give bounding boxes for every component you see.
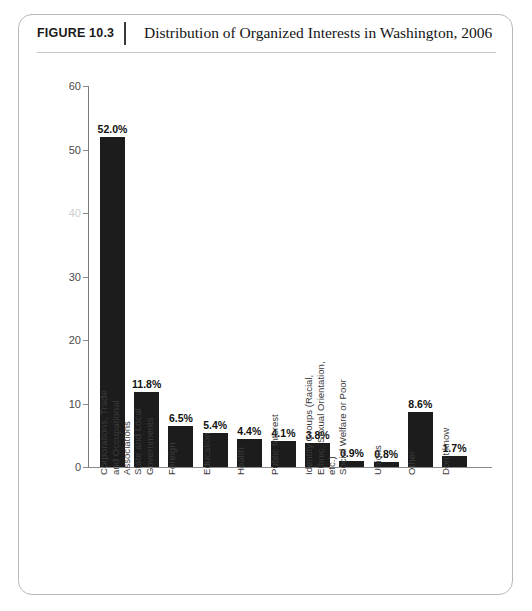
x-axis-category-label: Education xyxy=(201,350,213,475)
x-axis-category-label: Public Interest xyxy=(269,350,281,475)
y-axis-tick-label: 30 xyxy=(37,272,81,283)
y-axis-tick xyxy=(83,86,88,87)
y-axis-tick-label-wrap: 40 xyxy=(33,208,81,219)
y-axis-tick xyxy=(83,213,88,214)
bar-value-label: 8.6% xyxy=(397,398,443,410)
bar-value-label: 1.7% xyxy=(432,442,478,454)
y-axis-line xyxy=(88,86,89,467)
header-vertical-divider xyxy=(124,22,126,45)
y-axis-tick-label: 0 xyxy=(37,462,81,473)
y-axis-tick-label-wrap: 20 xyxy=(33,335,81,346)
figure-panel: FIGURE 10.3 Distribution of Organized In… xyxy=(18,14,513,595)
y-axis-tick xyxy=(83,404,88,405)
x-axis-category-label: State and Local Governments xyxy=(132,350,155,475)
x-axis-category-label: Health xyxy=(235,350,247,475)
bar-value-label: 0.8% xyxy=(363,448,409,460)
y-axis-tick-label: 10 xyxy=(37,399,81,410)
figure-screenshot: FIGURE 10.3 Distribution of Organized In… xyxy=(0,0,532,611)
chart-plot-area: 0102030405060 52.0%11.8%6.5%5.4%4.4%4.1%… xyxy=(19,53,514,596)
y-axis-tick-label: 50 xyxy=(37,145,81,156)
y-axis-tick-label-wrap: 60 xyxy=(33,81,81,92)
x-axis-category-label: Foreign xyxy=(166,350,178,475)
y-axis-tick-label-wrap: 30 xyxy=(33,272,81,283)
bar-value-label: 52.0% xyxy=(90,123,136,135)
y-axis-tick xyxy=(83,467,88,468)
y-axis-tick-label-wrap: 0 xyxy=(33,462,81,473)
figure-header: FIGURE 10.3 Distribution of Organized In… xyxy=(19,15,512,53)
y-axis-tick xyxy=(83,150,88,151)
x-axis-category-label: Identity Groups (Racial, Ethnic, Sexual … xyxy=(303,350,338,475)
y-axis-tick xyxy=(83,340,88,341)
y-axis-tick-label: 60 xyxy=(37,81,81,92)
y-axis-tick-label: 40 xyxy=(37,208,81,219)
y-axis-tick xyxy=(83,277,88,278)
x-axis-category-label: Unions xyxy=(372,350,384,475)
y-axis-tick-label-wrap: 10 xyxy=(33,399,81,410)
x-axis-category-label: Other xyxy=(406,350,418,475)
x-axis-category-label: Social Welfare or Poor xyxy=(337,350,349,475)
x-axis-category-label: Don't know xyxy=(440,350,452,475)
figure-number-label: FIGURE 10.3 xyxy=(37,26,114,40)
figure-title: Distribution of Organized Interests in W… xyxy=(144,24,492,42)
y-axis-tick-label: 20 xyxy=(37,335,81,346)
y-axis-tick-label-wrap: 50 xyxy=(33,145,81,156)
x-axis-category-label: Corporations, Trade and Occupational Ass… xyxy=(98,350,133,475)
